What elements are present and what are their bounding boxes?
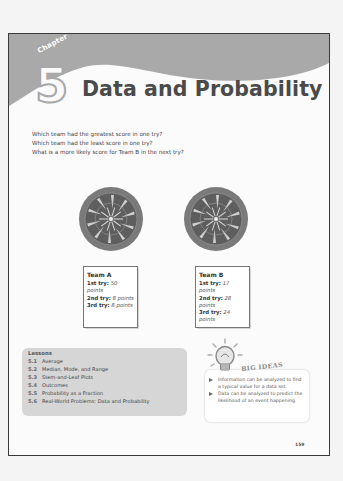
lesson-number: 5.1 <box>28 357 42 365</box>
lesson-item: 5.3Stem-and-Leaf Plots <box>28 373 181 381</box>
try-row: 3rd try: 8 points <box>87 302 134 309</box>
lesson-item: 5.2Median, Mode, and Range <box>28 365 181 373</box>
lesson-item: 5.6Real-World Problems: Data and Probabi… <box>28 397 181 405</box>
lesson-number: 5.2 <box>28 365 42 373</box>
lessons-heading: Lessons <box>28 350 181 357</box>
try-label: 3rd try: <box>87 302 110 308</box>
score-card-team-b: Team B 1st try: 17 points 2nd try: 28 po… <box>195 266 250 328</box>
chapter-number: 5 <box>35 61 68 109</box>
chapter-title: Data and Probability <box>82 77 323 101</box>
try-row: 3rd try: 24 points <box>199 309 246 323</box>
lessons-box: Lessons 5.1Average 5.2Median, Mode, and … <box>22 348 187 416</box>
team-name: Team A <box>87 271 134 278</box>
lesson-title: Probability as a Fraction <box>42 390 103 396</box>
lightbulb-icon <box>207 337 243 379</box>
big-idea-item: Data can be analyzed to predict the like… <box>209 391 305 404</box>
lesson-title: Real-World Problems: Data and Probabilit… <box>42 398 150 404</box>
lesson-number: 5.3 <box>28 373 42 381</box>
try-row: 2nd try: 8 points <box>87 295 134 302</box>
team-name: Team B <box>199 271 246 278</box>
opening-questions: Which team had the greatest score in one… <box>32 130 184 157</box>
dartboard-image-team-a <box>78 186 144 252</box>
lesson-number: 5.6 <box>28 397 42 405</box>
question: Which team had the greatest score in one… <box>32 130 184 139</box>
page-number: 159 <box>295 442 304 447</box>
lesson-item: 5.1Average <box>28 357 181 365</box>
question: Which team had the least score in one tr… <box>32 139 184 148</box>
score-card-team-a: Team A 1st try: 50 points 2nd try: 8 poi… <box>83 266 138 328</box>
dartboard-image-team-b <box>183 186 249 252</box>
try-value: 8 points <box>111 302 132 308</box>
big-idea-text: Data can be analyzed to predict the like… <box>218 391 302 403</box>
try-row: 1st try: 17 points <box>199 280 246 294</box>
try-label: 1st try: <box>87 280 109 286</box>
try-value: 8 points <box>113 295 134 301</box>
lesson-number: 5.4 <box>28 381 42 389</box>
try-label: 2nd try: <box>87 295 111 301</box>
try-label: 2nd try: <box>199 295 223 301</box>
lesson-number: 5.5 <box>28 389 42 397</box>
lesson-title: Outcomes <box>42 382 68 388</box>
lesson-title: Stem-and-Leaf Plots <box>42 374 93 380</box>
try-row: 2nd try: 28 points <box>199 295 246 309</box>
lesson-item: 5.4Outcomes <box>28 381 181 389</box>
lesson-title: Median, Mode, and Range <box>42 366 108 372</box>
try-label: 1st try: <box>199 280 221 286</box>
question: What is a more likely score for Team B i… <box>32 148 184 157</box>
textbook-page: Chapter 5 Data and Probability Which tea… <box>8 33 330 456</box>
lesson-item: 5.5Probability as a Fraction <box>28 389 181 397</box>
lesson-title: Average <box>42 358 63 364</box>
triangle-bullet-icon <box>209 392 213 396</box>
try-row: 1st try: 50 points <box>87 280 134 294</box>
try-label: 3rd try: <box>199 309 222 315</box>
